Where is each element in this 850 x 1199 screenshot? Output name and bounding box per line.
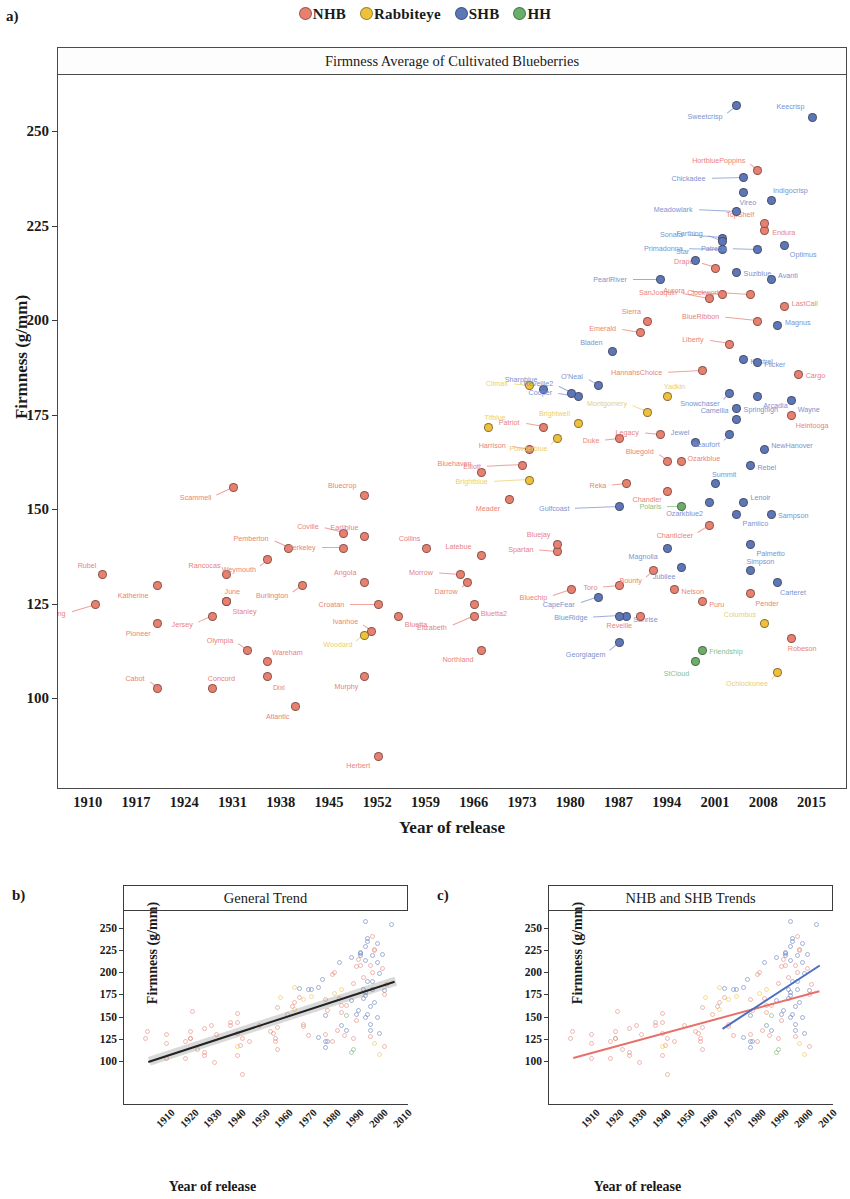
- data-point[interactable]: [753, 358, 762, 367]
- data-point[interactable]: [794, 370, 803, 379]
- data-point[interactable]: [525, 476, 534, 485]
- data-point[interactable]: [663, 392, 672, 401]
- data-point[interactable]: [787, 396, 796, 405]
- data-point[interactable]: [705, 498, 714, 507]
- data-point[interactable]: [477, 551, 486, 560]
- data-point[interactable]: [739, 173, 748, 182]
- data-point[interactable]: [615, 502, 624, 511]
- data-point[interactable]: [663, 457, 672, 466]
- data-point[interactable]: [567, 585, 576, 594]
- data-point[interactable]: [656, 430, 665, 439]
- data-point[interactable]: [732, 415, 741, 424]
- data-point[interactable]: [615, 612, 624, 621]
- data-point[interactable]: [594, 381, 603, 390]
- data-point[interactable]: [780, 241, 789, 250]
- data-point[interactable]: [553, 540, 562, 549]
- data-point[interactable]: [732, 268, 741, 277]
- data-point[interactable]: [753, 245, 762, 254]
- data-point[interactable]: [153, 581, 162, 590]
- data-point[interactable]: [732, 510, 741, 519]
- data-point[interactable]: [422, 544, 431, 553]
- legend-item-nhb[interactable]: NHB: [299, 6, 346, 23]
- data-point[interactable]: [670, 585, 679, 594]
- data-point[interactable]: [636, 612, 645, 621]
- data-point[interactable]: [739, 498, 748, 507]
- data-point[interactable]: [263, 555, 272, 564]
- data-point[interactable]: [753, 392, 762, 401]
- data-point[interactable]: [222, 597, 231, 606]
- data-point[interactable]: [677, 563, 686, 572]
- data-point[interactable]: [767, 196, 776, 205]
- data-point[interactable]: [725, 340, 734, 349]
- data-point[interactable]: [263, 657, 272, 666]
- data-point[interactable]: [208, 612, 217, 621]
- data-point[interactable]: [229, 483, 238, 492]
- data-point[interactable]: [711, 264, 720, 273]
- data-point[interactable]: [615, 638, 624, 647]
- data-point[interactable]: [808, 113, 817, 122]
- data-point[interactable]: [574, 419, 583, 428]
- data-point[interactable]: [753, 166, 762, 175]
- data-point[interactable]: [767, 275, 776, 284]
- data-point[interactable]: [360, 578, 369, 587]
- data-point[interactable]: [208, 684, 217, 693]
- data-point[interactable]: [691, 256, 700, 265]
- data-point[interactable]: [360, 672, 369, 681]
- data-point[interactable]: [773, 578, 782, 587]
- data-point[interactable]: [153, 619, 162, 628]
- data-point[interactable]: [643, 408, 652, 417]
- data-point[interactable]: [360, 491, 369, 500]
- data-point[interactable]: [725, 430, 734, 439]
- data-point[interactable]: [643, 317, 652, 326]
- data-point[interactable]: [780, 302, 789, 311]
- data-point[interactable]: [663, 487, 672, 496]
- data-point[interactable]: [732, 404, 741, 413]
- data-point[interactable]: [711, 479, 720, 488]
- data-point[interactable]: [767, 510, 776, 519]
- data-point[interactable]: [539, 423, 548, 432]
- data-point[interactable]: [553, 434, 562, 443]
- data-point[interactable]: [691, 657, 700, 666]
- data-point[interactable]: [760, 619, 769, 628]
- data-point[interactable]: [463, 578, 472, 587]
- data-point[interactable]: [698, 597, 707, 606]
- data-point[interactable]: [594, 593, 603, 602]
- data-point[interactable]: [656, 275, 665, 284]
- data-point[interactable]: [746, 540, 755, 549]
- data-point[interactable]: [360, 532, 369, 541]
- data-point[interactable]: [470, 612, 479, 621]
- data-point[interactable]: [677, 457, 686, 466]
- data-point[interactable]: [567, 389, 576, 398]
- data-point[interactable]: [394, 612, 403, 621]
- data-point[interactable]: [753, 317, 762, 326]
- data-point[interactable]: [339, 544, 348, 553]
- legend-item-hh[interactable]: HH: [513, 6, 551, 23]
- data-point[interactable]: [746, 290, 755, 299]
- data-point[interactable]: [608, 347, 617, 356]
- data-point[interactable]: [787, 411, 796, 420]
- data-point[interactable]: [298, 581, 307, 590]
- data-point[interactable]: [746, 566, 755, 575]
- data-point[interactable]: [360, 631, 369, 640]
- data-point[interactable]: [374, 600, 383, 609]
- data-point[interactable]: [746, 589, 755, 598]
- data-point[interactable]: [773, 321, 782, 330]
- legend-item-shb[interactable]: SHB: [455, 6, 500, 23]
- data-point[interactable]: [374, 752, 383, 761]
- data-point[interactable]: [760, 445, 769, 454]
- data-point[interactable]: [243, 646, 252, 655]
- data-point[interactable]: [732, 101, 741, 110]
- data-point[interactable]: [725, 389, 734, 398]
- data-point[interactable]: [153, 684, 162, 693]
- data-point[interactable]: [787, 634, 796, 643]
- data-point[interactable]: [760, 219, 769, 228]
- data-point[interactable]: [518, 461, 527, 470]
- data-point[interactable]: [663, 544, 672, 553]
- data-point[interactable]: [622, 479, 631, 488]
- data-point[interactable]: [98, 570, 107, 579]
- data-point[interactable]: [698, 366, 707, 375]
- data-point[interactable]: [773, 668, 782, 677]
- data-point[interactable]: [484, 423, 493, 432]
- data-point[interactable]: [746, 461, 755, 470]
- data-point[interactable]: [636, 328, 645, 337]
